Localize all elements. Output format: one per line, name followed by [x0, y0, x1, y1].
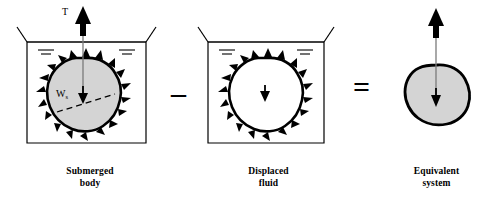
tension-arrow-shaft-icon: [433, 24, 439, 38]
tank-lip-left-icon: [17, 27, 27, 42]
panel-equivalent-system: T Ws Equivalent system: [380, 0, 493, 208]
caption-equivalent-system: Equivalent system: [380, 166, 493, 189]
caption-submerged-line1: Submerged: [0, 166, 180, 178]
caption-displaced-fluid: Displaced fluid: [186, 166, 351, 189]
water-level-mark-right-icon: [119, 50, 135, 54]
equals-operator: =: [353, 72, 370, 102]
tank-lip-right-icon: [146, 27, 156, 42]
tank-lip-right-icon: [324, 27, 334, 42]
panel-submerged-body: T Ws Submerged body: [0, 0, 180, 208]
buoyancy-diagram: T Ws Submerged body –: [0, 0, 493, 208]
caption-displaced-line1: Displaced: [186, 166, 351, 178]
tension-label-submerged: T: [62, 7, 68, 17]
tension-arrowhead-icon: [428, 8, 444, 26]
caption-submerged-body: Submerged body: [0, 166, 180, 189]
water-level-mark-right-icon: [297, 50, 313, 54]
water-level-mark-left-icon: [219, 50, 235, 54]
caption-displaced-line2: fluid: [186, 178, 351, 190]
caption-submerged-line2: body: [0, 178, 180, 190]
water-level-mark-left-icon: [38, 50, 54, 54]
tension-arrowhead-icon: [75, 6, 91, 24]
minus-operator: –: [171, 78, 186, 108]
equivalent-body-shape-icon: [405, 65, 470, 125]
weight-label-submerged-subscript: s: [65, 93, 68, 100]
caption-equivalent-line2: system: [380, 178, 493, 190]
tension-arrow-shaft-icon: [80, 22, 86, 36]
tank-lip-left-icon: [198, 27, 208, 42]
weight-label-submerged: Ws: [56, 89, 68, 99]
panel-displaced-fluid: Wf Displaced fluid: [186, 0, 351, 208]
caption-equivalent-line1: Equivalent: [380, 166, 493, 178]
